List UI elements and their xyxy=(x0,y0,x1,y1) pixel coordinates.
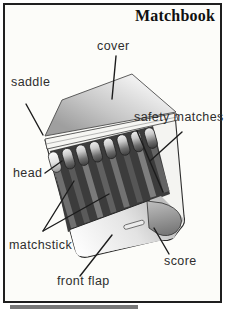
label-matchstick: matchstick xyxy=(9,239,72,252)
leader-saddle xyxy=(26,104,43,135)
label-safety-matches: safety matches xyxy=(134,111,224,124)
label-score: score xyxy=(164,255,197,268)
label-front-flap: front flap xyxy=(57,275,110,288)
page-title: Matchbook xyxy=(135,7,215,25)
label-head: head xyxy=(13,167,42,180)
book-page: Matchbook cover saddle safety matches he… xyxy=(0,0,226,309)
label-cover: cover xyxy=(97,40,130,53)
scan-artifact xyxy=(10,305,138,309)
label-saddle: saddle xyxy=(11,76,50,89)
